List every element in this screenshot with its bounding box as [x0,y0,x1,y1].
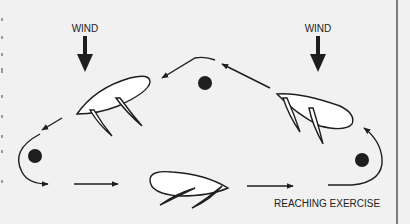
path-right-to-top [222,64,270,88]
reaching-exercise-diagram: WIND WIND [0,0,410,224]
wind-arrow-right-icon [310,36,326,72]
caption: REACHING EXERCISE [274,198,380,209]
top-mark [198,76,212,90]
right-mark [355,153,369,167]
left-mark [28,149,42,163]
path-rounding-right [328,128,382,185]
wind-label-left: WIND [72,23,99,34]
left-edge-marks [1,18,3,183]
boat-upper-right-icon [277,94,353,144]
boat-bottom-icon [150,172,228,208]
boat-upper-left-icon [77,76,150,136]
wind-label-right: WIND [305,23,332,34]
path-left-to-mark [42,118,62,130]
wind-arrow-left-icon [77,36,93,72]
path-top-to-left [162,57,215,78]
